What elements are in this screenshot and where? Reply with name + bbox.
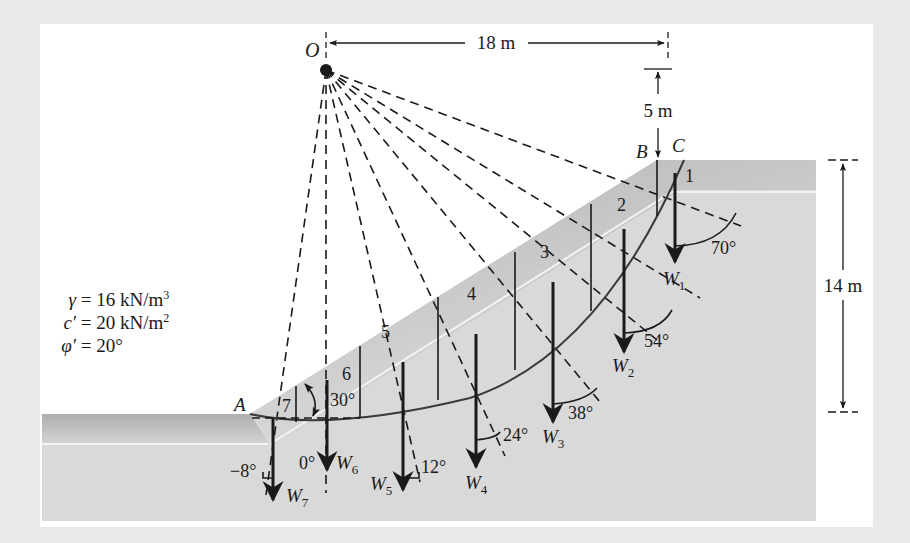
svg-text:2: 2 (617, 195, 626, 215)
param-friction-angle: φ′ = 20° (54, 334, 169, 357)
center-point-o (320, 64, 332, 76)
angle-slice-4: 24° (503, 425, 528, 445)
slope-stability-diagram: 18 m 5 m 14 m O B C A 1 2 3 4 5 6 7 70° … (0, 0, 910, 543)
label-point-a: A (232, 394, 246, 415)
angle-slice-1: 70° (711, 238, 736, 258)
angle-slice-6: 0° (299, 453, 315, 473)
slope-angle-label: 30° (330, 390, 355, 410)
angle-slice-5: 12° (421, 457, 446, 477)
svg-text:1: 1 (685, 166, 694, 186)
label-18m: 18 m (477, 32, 516, 53)
svg-text:7: 7 (282, 396, 291, 416)
angle-slice-2: 54° (644, 331, 669, 351)
param-unit-weight: γ = 16 kN/m3 (54, 288, 169, 311)
svg-text:4: 4 (467, 284, 476, 304)
svg-text:3: 3 (540, 242, 549, 262)
label-5m: 5 m (643, 100, 672, 121)
label-point-o: O (305, 39, 319, 61)
param-cohesion: c′ = 20 kN/m2 (54, 311, 169, 334)
label-point-c: C (672, 135, 685, 156)
svg-text:5: 5 (381, 322, 390, 342)
label-14m: 14 m (824, 275, 863, 296)
soil-parameters: γ = 16 kN/m3 c′ = 20 kN/m2 φ′ = 20° (54, 288, 169, 357)
angle-slice-7: −8° (230, 461, 256, 481)
angle-slice-3: 38° (568, 403, 593, 423)
label-point-b: B (636, 141, 648, 162)
svg-text:6: 6 (342, 364, 351, 384)
